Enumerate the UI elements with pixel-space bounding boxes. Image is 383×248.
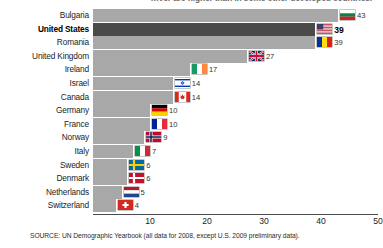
- denmark-flag-icon: [129, 173, 144, 183]
- ireland-flag-icon: [192, 64, 207, 74]
- bar-value-label: 5: [141, 186, 145, 199]
- bar: [93, 118, 150, 131]
- israel-flag-icon: [175, 78, 190, 88]
- plot-area: Bulgaria43United States39Romania39United…: [0, 9, 380, 214]
- category-label-canada: Canada: [0, 91, 89, 104]
- bar-value-label: 17: [209, 63, 217, 76]
- bar: [93, 186, 122, 199]
- bar-value-label: 6: [146, 159, 150, 172]
- bar-value-label: 7: [152, 145, 156, 158]
- chart-row: Ireland17: [0, 63, 380, 76]
- bar: [93, 172, 127, 185]
- bar: [93, 199, 116, 212]
- canada-flag-icon: [175, 92, 190, 102]
- category-label-united-kingdom: United Kingdom: [0, 50, 89, 63]
- bar-value-label: 10: [169, 118, 177, 131]
- chart-row: France10: [0, 118, 380, 131]
- category-label-norway: Norway: [0, 131, 89, 144]
- chart-row: Canada14: [0, 91, 380, 104]
- united-states-flag-icon: [317, 24, 332, 34]
- italy-flag-icon: [135, 146, 150, 156]
- switzerland-flag-icon: [118, 200, 133, 210]
- source-note: SOURCE: UN Demographic Yearbook (all dat…: [30, 232, 300, 239]
- bar-value-label: 14: [192, 77, 200, 90]
- norway-flag-icon: [146, 132, 161, 142]
- bar-value-label: 43: [357, 9, 365, 22]
- bar: [93, 159, 127, 172]
- netherlands-flag-icon: [124, 187, 139, 197]
- chart-row: Germany10: [0, 104, 380, 117]
- bar-value-label: 27: [266, 50, 274, 63]
- chart-row: Italy7: [0, 145, 380, 158]
- chart-row: United Kingdom27: [0, 50, 380, 63]
- category-label-germany: Germany: [0, 104, 89, 117]
- headline-strip: …ver are higher than in some other devel…: [0, 0, 380, 5]
- bar: [93, 36, 315, 49]
- united-kingdom-flag-icon: [249, 51, 264, 61]
- category-label-france: France: [0, 118, 89, 131]
- bar: [93, 145, 133, 158]
- chart-row: United States39: [0, 23, 380, 36]
- bar: [93, 63, 190, 76]
- category-label-bulgaria: Bulgaria: [0, 9, 89, 22]
- bar: [93, 50, 247, 63]
- category-label-israel: Israel: [0, 77, 89, 90]
- bar: [93, 23, 315, 36]
- chart-row: Switzerland4: [0, 199, 380, 212]
- bar-value-label: 6: [146, 172, 150, 185]
- category-label-united-states: United States: [0, 23, 89, 36]
- france-flag-icon: [152, 119, 167, 129]
- category-label-italy: Italy: [0, 145, 89, 158]
- category-label-romania: Romania: [0, 36, 89, 49]
- bar: [93, 131, 144, 144]
- x-tick-label: 10: [145, 216, 155, 226]
- romania-flag-icon: [317, 37, 332, 47]
- bar-value-label: 39: [334, 36, 342, 49]
- bar: [93, 104, 150, 117]
- sweden-flag-icon: [129, 160, 144, 170]
- x-axis-line: [93, 214, 378, 215]
- category-label-switzerland: Switzerland: [0, 199, 89, 212]
- bar: [93, 9, 338, 22]
- headline-partial-text: …ver are higher than in some other devel…: [150, 0, 372, 3]
- germany-flag-icon: [152, 105, 167, 115]
- bar: [93, 77, 173, 90]
- bar: [93, 91, 173, 104]
- x-tick-label: 40: [316, 216, 326, 226]
- bar-value-label: 9: [163, 131, 167, 144]
- x-tick-label: 30: [259, 216, 269, 226]
- x-tick-label: 50: [373, 216, 383, 226]
- bar-value-label: 39: [334, 23, 344, 36]
- bar-value-label: 4: [135, 199, 139, 212]
- x-tick-label: 20: [202, 216, 212, 226]
- chart-row: Denmark6: [0, 172, 380, 185]
- category-label-netherlands: Netherlands: [0, 186, 89, 199]
- chart-row: Bulgaria43: [0, 9, 380, 22]
- category-label-denmark: Denmark: [0, 172, 89, 185]
- bar-value-label: 14: [192, 91, 200, 104]
- chart-row: Sweden6: [0, 159, 380, 172]
- chart-row: Israel14: [0, 77, 380, 90]
- category-label-ireland: Ireland: [0, 63, 89, 76]
- category-label-sweden: Sweden: [0, 159, 89, 172]
- chart-row: Norway9: [0, 131, 380, 144]
- chart-row: Netherlands5: [0, 186, 380, 199]
- bulgaria-flag-icon: [340, 10, 355, 20]
- bar-value-label: 10: [169, 104, 177, 117]
- chart-row: Romania39: [0, 36, 380, 49]
